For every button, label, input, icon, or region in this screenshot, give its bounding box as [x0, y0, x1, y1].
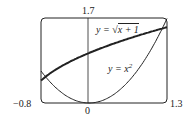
sqrt-equation-label: y = √x + 1 [96, 25, 139, 35]
x-max-label: 1.3 [170, 99, 183, 109]
x-min-label: −0.8 [13, 99, 31, 109]
origin-label: 0 [85, 106, 90, 116]
parabola-equation-label: y = x2 [108, 63, 132, 74]
y-max-label: 1.7 [82, 6, 95, 16]
